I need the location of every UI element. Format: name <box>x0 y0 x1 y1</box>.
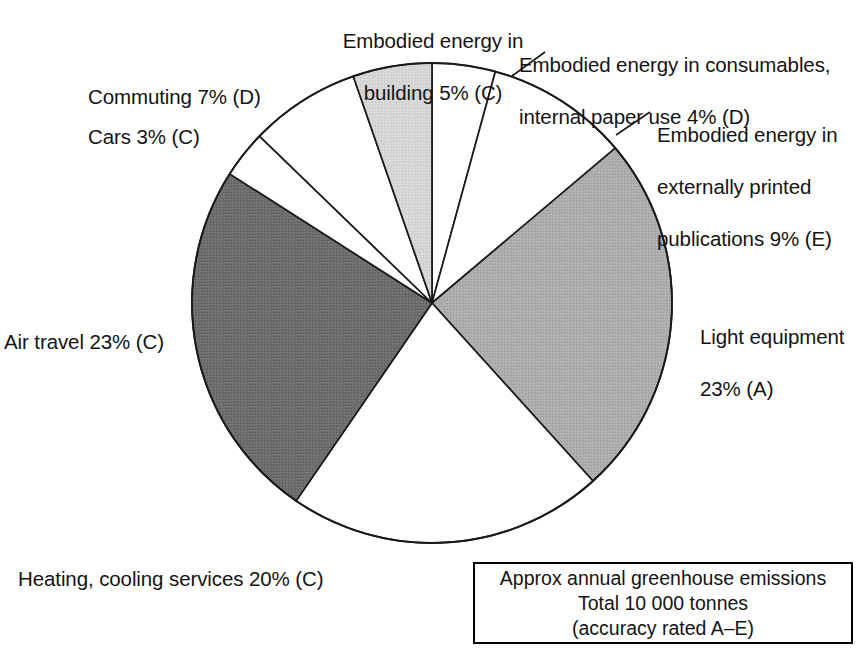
caption-line-1: Approx annual greenhouse emissions <box>500 566 826 591</box>
slice-label-consumables-line1: Embodied energy in consumables, <box>519 53 830 76</box>
slice-label-embodied-building-line2: building 5% (C) <box>364 81 503 104</box>
pie-chart-figure: Embodied energy in building 5% (C) Embod… <box>0 0 865 652</box>
slice-label-air-travel: Air travel 23% (C) <box>4 303 184 355</box>
slice-label-printed-publications-line2: externally printed <box>657 175 811 198</box>
slice-label-printed-publications-line1: Embodied energy in <box>657 123 838 146</box>
slice-label-embodied-building-line1: Embodied energy in <box>343 29 524 52</box>
slice-label-printed-publications: Embodied energy in externally printed pu… <box>657 96 865 252</box>
slice-label-heating-cooling-line1: Heating, cooling services 20% (C) <box>18 567 323 590</box>
slice-label-light-equipment-line2: 23% (A) <box>700 377 773 400</box>
caption-line-2: Total 10 000 tonnes <box>578 591 748 616</box>
slice-label-cars-line1: Cars 3% (C) <box>88 125 200 148</box>
slice-label-air-travel-line1: Air travel 23% (C) <box>4 330 164 353</box>
slice-label-light-equipment-line1: Light equipment <box>700 325 844 348</box>
slice-label-heating-cooling: Heating, cooling services 20% (C) <box>18 540 408 592</box>
caption-line-3: (accuracy rated A–E) <box>572 616 754 641</box>
slice-label-cars: Cars 3% (C) <box>88 98 248 150</box>
slice-label-light-equipment: Light equipment 23% (A) <box>700 298 865 402</box>
slice-label-embodied-building: Embodied energy in building 5% (C) <box>318 2 548 106</box>
caption-box: Approx annual greenhouse emissions Total… <box>473 562 853 644</box>
slice-label-printed-publications-line3: publications 9% (E) <box>657 227 832 250</box>
pie-slices <box>192 63 672 543</box>
